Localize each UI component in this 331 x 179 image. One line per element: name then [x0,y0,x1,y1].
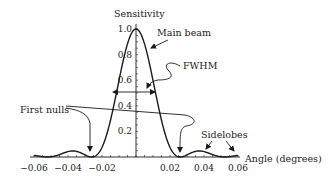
x-tick-label: −0.02 [88,163,116,173]
main-beam-label: Main beam [157,27,211,38]
first-nulls-label: First nulls [20,104,69,115]
x-tick-label: 0.06 [228,163,248,173]
x-tick-label: 0.02 [160,163,180,173]
first-nulls-pointer-left [66,108,90,151]
x-tick-label: −0.06 [20,163,48,173]
sidelobes-arrow-1 [206,141,212,149]
sidelobes-arrow-2 [226,141,234,151]
y-tick-labels: 0.20.40.60.81.0 [118,24,133,136]
x-tick-labels: −0.06−0.04−0.020.020.040.06 [20,163,248,173]
y-tick-label: 0.2 [118,126,132,136]
x-axis-title: Angle (degrees) [244,153,322,164]
beam-pattern-chart: −0.06−0.04−0.020.020.040.06 0.20.40.60.8… [0,0,331,179]
x-tick-label: 0.04 [194,163,214,173]
y-tick-label: 1.0 [118,24,133,34]
main-beam-arrow [151,40,168,48]
y-tick-label: 0.4 [118,101,133,111]
fwhm-label: FWHM [183,60,218,71]
x-tick-label: −0.04 [54,163,82,173]
y-axis-title: Sensitivity [114,8,165,19]
sidelobes-label: Sidelobes [201,129,248,140]
